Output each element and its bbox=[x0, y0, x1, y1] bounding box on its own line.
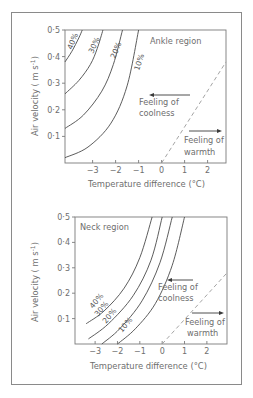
neck-warmth-text-1: Feeling of bbox=[185, 317, 226, 327]
y-tick-label: 0·2 bbox=[47, 106, 60, 115]
ankle-region-title: Ankle region bbox=[150, 36, 201, 46]
y-tick-label: 0·3 bbox=[57, 264, 70, 273]
neck-y-ticks: 0·10·20·30·40·5 bbox=[57, 213, 75, 324]
y-tick-label: 0·1 bbox=[47, 132, 60, 141]
neck-x-axis-label: Temperature difference (°C) bbox=[89, 361, 207, 371]
ankle-label-30: 30% bbox=[87, 36, 102, 55]
x-tick-label: 1 bbox=[182, 166, 187, 175]
y-tick-label: 0·4 bbox=[47, 53, 60, 62]
ankle-chart: 0·10·20·30·40·5 −3−2−1012 Ankle region 4… bbox=[29, 26, 226, 189]
neck-coolness-text-1: Feeling of bbox=[158, 282, 199, 292]
x-tick-label: 2 bbox=[204, 347, 209, 356]
curve-20pct bbox=[102, 217, 172, 344]
ankle-label-10: 10% bbox=[132, 53, 146, 72]
x-tick-label: −1 bbox=[134, 347, 146, 356]
neck-region-title: Neck region bbox=[80, 222, 129, 232]
y-tick-label: 0·4 bbox=[57, 238, 70, 247]
x-tick-label: 1 bbox=[182, 347, 187, 356]
ankle-x-axis-label: Temperature difference (°C) bbox=[87, 179, 205, 189]
x-tick-label: −3 bbox=[89, 347, 101, 356]
y-tick-label: 0·1 bbox=[57, 315, 70, 324]
neck-label-10: 10% bbox=[117, 316, 135, 335]
y-tick-label: 0·3 bbox=[47, 79, 60, 88]
x-tick-label: 0 bbox=[160, 347, 165, 356]
neck-y-axis-label: Air velocity ( m s-1) bbox=[29, 242, 40, 322]
ankle-warmth-text-1: Feeling of bbox=[184, 135, 225, 145]
ankle-x-ticks: −3−2−1012 bbox=[87, 160, 210, 175]
y-tick-label: 0·2 bbox=[57, 289, 70, 298]
ankle-warmth-arrowhead-icon bbox=[217, 129, 222, 133]
neck-chart: 0·10·20·30·40·5 −3−2−1012 Neck region 40… bbox=[29, 213, 227, 371]
y-tick-label: 0·5 bbox=[47, 26, 60, 35]
ankle-warmth-text-2: warmth bbox=[184, 147, 215, 157]
ankle-coolness-text-2: coolness bbox=[139, 108, 175, 118]
figure-canvas: 0·10·20·30·40·5 −3−2−1012 Ankle region 4… bbox=[0, 0, 253, 398]
x-tick-label: 0 bbox=[159, 166, 164, 175]
ankle-coolness-text-1: Feeling of bbox=[139, 97, 180, 107]
neck-x-ticks: −3−2−1012 bbox=[89, 341, 209, 356]
y-tick-label: 0·5 bbox=[57, 213, 70, 222]
ankle-y-ticks: 0·10·20·30·40·5 bbox=[47, 26, 65, 141]
x-tick-label: 2 bbox=[205, 166, 210, 175]
x-tick-label: −3 bbox=[87, 166, 99, 175]
neck-warmth-text-2: warmth bbox=[187, 328, 218, 338]
ankle-label-20: 20% bbox=[109, 41, 124, 60]
x-tick-label: −2 bbox=[110, 166, 122, 175]
curve-10pct bbox=[65, 30, 139, 158]
x-tick-label: −1 bbox=[133, 166, 145, 175]
x-tick-label: −2 bbox=[112, 347, 124, 356]
ankle-label-40: 40% bbox=[66, 32, 81, 51]
ankle-y-axis-label: Air velocity ( m s-1) bbox=[29, 56, 40, 136]
neck-warmth-arrowhead-icon bbox=[219, 311, 224, 315]
neck-coolness-text-2: coolness bbox=[158, 293, 194, 303]
